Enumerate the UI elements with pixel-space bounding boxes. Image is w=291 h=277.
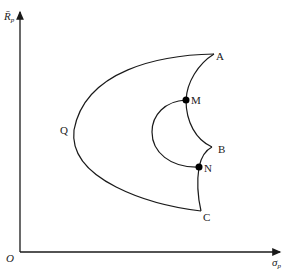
inner-curve-MN — [152, 100, 199, 167]
point-M-dot — [183, 97, 190, 104]
label-N: N — [204, 162, 212, 174]
label-B: B — [218, 143, 225, 155]
y-axis-label: R̄p — [3, 10, 15, 24]
label-A: A — [216, 50, 224, 62]
origin-label: O — [6, 252, 14, 264]
label-C: C — [203, 211, 210, 223]
diagram-canvas: A M B N C Q O R̄p σp — [0, 0, 291, 277]
x-axis-label: σp — [272, 256, 281, 270]
label-Q: Q — [60, 124, 68, 136]
label-M: M — [191, 94, 201, 106]
curve-BNC — [198, 147, 212, 211]
point-N-dot — [196, 164, 203, 171]
